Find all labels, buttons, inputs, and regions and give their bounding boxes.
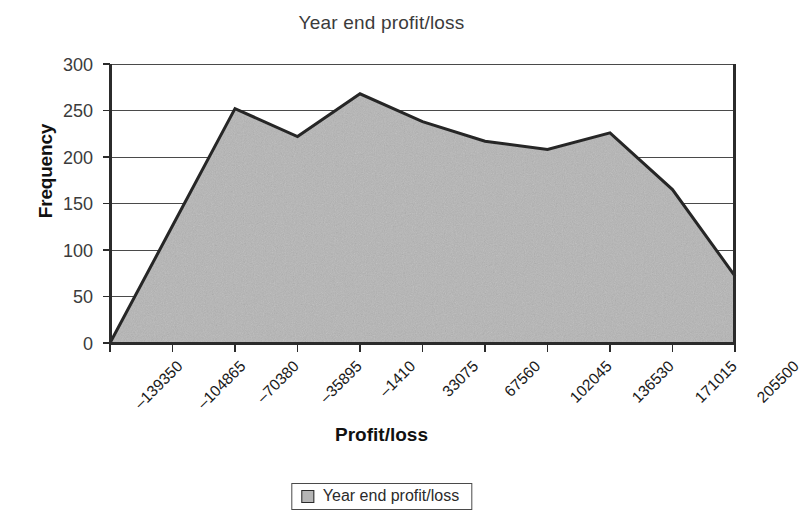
- area-series-fill: [110, 94, 735, 343]
- y-tick-label: 250: [33, 102, 93, 120]
- chart-legend: Year end profit/loss: [291, 483, 472, 510]
- y-axis-ticks: [103, 64, 110, 343]
- y-tick-label: 200: [33, 149, 93, 167]
- y-tick-label: 0: [33, 335, 93, 353]
- plot-area: Frequency Profit/loss: [0, 0, 763, 470]
- legend-swatch-icon: [301, 490, 314, 503]
- y-tick-label: 50: [33, 288, 93, 306]
- chart-canvas: [0, 0, 763, 470]
- legend-item-label: Year end profit/loss: [323, 488, 459, 504]
- y-tick-label: 100: [33, 242, 93, 260]
- y-tick-label: 300: [33, 56, 93, 74]
- y-tick-label: 150: [33, 195, 93, 213]
